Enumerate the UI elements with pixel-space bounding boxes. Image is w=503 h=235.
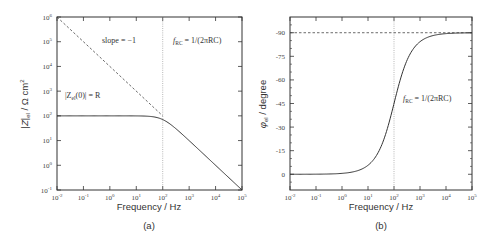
y-tick-label: -15 [276,147,286,155]
frc-annotation-b: fRC = 1/(2πRC) [403,94,452,104]
phase-curve [290,33,472,174]
y-axis-label-a: |Z|el / Ω cm2 [19,79,31,129]
x-axis-label-a: Frequency / Hz [117,201,182,212]
x-tick-label: 104 [211,193,221,202]
x-tick-label: 103 [184,193,194,202]
y-tick-label: 106 [43,13,53,22]
x-tick-label: 103 [415,193,425,202]
x-tick-label: 10-2 [51,193,63,202]
chart-b: 10-210-1100101102103104105 0-15-30-45-60… [257,17,477,231]
x-tick-label: 100 [337,193,347,202]
y-tick-label: 100 [43,161,53,170]
y-axis-label-b: φel / degree [257,80,269,128]
x-tick-label: 100 [105,193,115,202]
x-tick-label: 10-2 [284,193,296,202]
y-tick-label: -75 [276,53,286,61]
z0-annotation: |Zel(0)| = R [65,91,101,101]
y-tick-label: 104 [43,62,53,71]
y-tick-label: -45 [276,100,286,108]
impedance-curve [57,116,242,190]
x-axis-label-b: Frequency / Hz [349,201,414,212]
y-tick-label: 101 [43,136,53,145]
y-tick-label: 105 [43,37,53,46]
figure-canvas: 10-210-1100101102103104105 10-1100101102… [0,0,503,235]
slope-annotation: slope = −1 [102,36,136,45]
frc-annotation-a: fRC = 1/(2πRC) [173,36,222,46]
panel-caption-a: (a) [143,220,155,231]
slope-asymptote-line [57,17,163,116]
x-tick-label: 10-1 [310,193,322,202]
y-tick-label: -30 [276,124,286,132]
x-tick-label: 104 [441,193,451,202]
chart-a: 10-210-1100101102103104105 10-1100101102… [19,13,247,232]
x-tick-label: 10-1 [78,193,90,202]
x-tick-label: 105 [467,193,477,202]
y-tick-label: 103 [43,87,53,96]
panel-caption-b: (b) [375,220,387,231]
y-tick-label: 102 [43,111,53,120]
y-tick-label: 0 [282,171,286,179]
plot-frame-b [290,17,472,190]
x-tick-label: 105 [237,193,247,202]
y-tick-label: -90 [276,29,286,37]
y-tick-label: -60 [276,76,286,84]
